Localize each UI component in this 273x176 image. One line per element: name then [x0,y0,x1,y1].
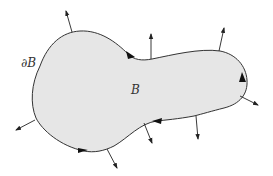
region-label: B [131,84,140,96]
boundary-label: ∂B [21,57,36,69]
normal-arrow-right-top [219,28,224,51]
normal-arrow-left [16,120,35,130]
normal-arrow-bottom [107,149,117,168]
normal-arrow-neck-bottom [144,123,152,143]
normal-arrow-top-left [66,11,72,32]
normal-arrow-right [240,96,258,105]
region-boundary-diagram: ∂B B [0,0,273,176]
normal-arrow-bottom-right [196,116,198,139]
